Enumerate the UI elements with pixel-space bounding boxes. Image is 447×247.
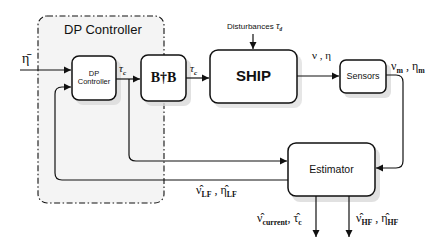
estimator-label: Estimator [288,143,375,196]
sensors-label: Sensors [340,60,386,93]
disturbances-label: Disturbances τd [227,21,282,32]
allocation-label: B†B [141,55,186,101]
current-estimate-label: ν̂current, τ̂c [257,212,302,227]
dp-controller-label: DP Controller [72,56,116,100]
lf-estimate-label: ν̂LF , η̂LF [196,184,237,199]
ship-label: SHIP [210,50,297,103]
dp-controller-container [38,16,164,203]
container-title: DP Controller [64,23,142,36]
sensor-output-label: νm , ηm [391,60,425,75]
diagram-canvas [0,0,447,247]
dp-controller-line2: Controller [78,78,111,86]
tau-c-controller-label: τc [119,63,126,77]
ship-output-label: ν , η [312,50,331,61]
reference-eta-label: η̄ [22,52,29,66]
tau-c-allocation-label: τc [190,63,197,77]
hf-estimate-label: ν̂HF , η̂HF [356,212,398,227]
